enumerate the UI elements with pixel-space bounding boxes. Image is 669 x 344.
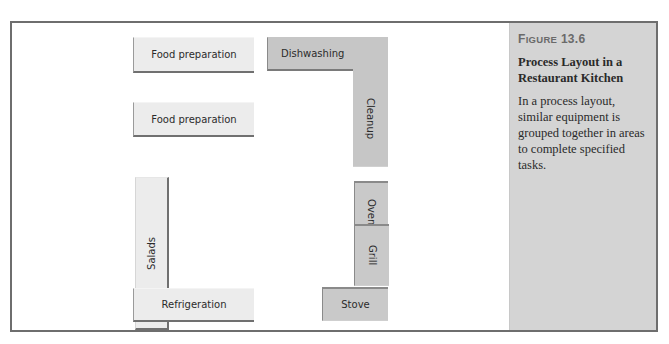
figure-number: FIGURE 13.6	[518, 32, 648, 46]
station-label: Food preparation	[151, 49, 236, 60]
station-stove: Stove	[322, 287, 388, 321]
station-label: Cleanup	[365, 98, 376, 139]
station-grill: Grill	[354, 224, 389, 286]
figure-frame: Food preparation Food preparation Salads…	[10, 21, 658, 332]
station-refrigeration: Refrigeration	[133, 288, 254, 322]
station-food-preparation-1: Food preparation	[133, 37, 254, 73]
station-food-preparation-2: Food preparation	[133, 102, 254, 137]
station-label: Food preparation	[151, 114, 236, 125]
figure-caption-panel: FIGURE 13.6 Process Layout in a Restaura…	[509, 23, 656, 330]
station-label: Stove	[341, 299, 369, 310]
station-label: Dishwashing	[281, 48, 344, 59]
station-label: Refrigeration	[162, 299, 227, 310]
station-label: Salads	[146, 237, 157, 270]
station-dishwashing: Dishwashing	[267, 37, 360, 71]
station-dishwashing-cleanup: Dishwashing	[267, 37, 360, 85]
station-label: Grill	[367, 245, 378, 265]
figure-caption: In a process layout, similar equipment i…	[518, 93, 648, 173]
station-cleanup: Cleanup	[353, 37, 388, 167]
figure-title: Process Layout in a Restaurant Kitchen	[518, 54, 648, 86]
station-label: Oven	[366, 199, 377, 225]
